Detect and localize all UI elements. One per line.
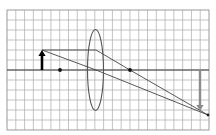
image-arrow-icon [196, 70, 203, 111]
diagram-svg [0, 0, 216, 135]
focal-point-dot [58, 68, 62, 72]
lens-ray-diagram: Converging lens ray diagram: object beyo… [0, 0, 216, 135]
focal-point-dot [128, 68, 132, 72]
image-point [207, 114, 210, 117]
